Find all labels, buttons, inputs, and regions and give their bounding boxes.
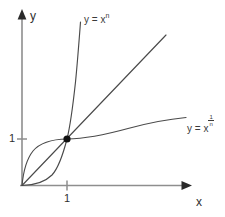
power-curve-label-prefix: y = x [84, 14, 105, 25]
identity-line [22, 35, 166, 186]
root-curve-exponent-numerator: 1 [208, 114, 213, 121]
intersection-point [63, 135, 70, 142]
root-curve-label-exponent-fraction: 1n [208, 114, 213, 127]
y-axis-arrowhead [18, 9, 27, 20]
x-axis-label: x [196, 196, 202, 208]
x-axis-tick-label-1: 1 [64, 193, 70, 204]
power-curve [22, 22, 81, 186]
plot-canvas [0, 0, 225, 217]
root-curve-label-prefix: y = x [187, 123, 208, 134]
power-curve-label-exponent: n [105, 12, 109, 19]
y-axis-tick-label-1: 1 [9, 133, 15, 144]
root-curve-exponent-denominator: n [208, 121, 213, 127]
math-figure: y x 1 1 y = xn y = x1n [0, 0, 225, 217]
root-curve-label: y = x1n [187, 116, 214, 134]
y-axis-label: y [30, 10, 36, 22]
root-curve [22, 118, 186, 186]
power-curve-label: y = xn [84, 13, 109, 25]
x-axis-arrowhead [182, 181, 193, 190]
